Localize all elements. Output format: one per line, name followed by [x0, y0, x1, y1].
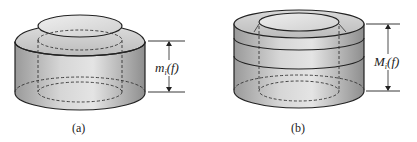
caption-b: (b) — [291, 121, 305, 135]
figure-b: Mi(f) (b) — [234, 10, 400, 135]
dimension-label-b: Mi(f) — [373, 54, 399, 71]
dimension-label-a: mi(f) — [155, 60, 179, 77]
cylinder-a-core-top — [38, 15, 122, 37]
dimension-m-i: mi(f) — [148, 41, 185, 92]
cylinder-b-core-top — [259, 13, 339, 31]
caption-a: (a) — [72, 121, 85, 135]
dimension-M-i: Mi(f) — [366, 24, 400, 91]
figure-a: mi(f) (a) — [15, 15, 185, 135]
